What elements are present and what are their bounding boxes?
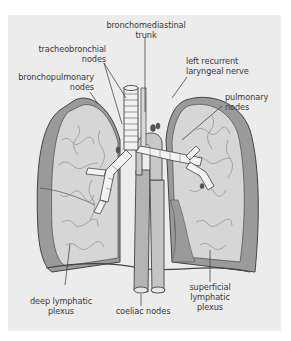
- label-deep-lymphatic-plexus: deep lymphatic plexus: [24, 296, 98, 316]
- label-line: left recurrent: [186, 56, 249, 66]
- label-line: coeliac nodes: [108, 306, 178, 316]
- label-coeliac-nodes: coeliac nodes: [108, 306, 178, 316]
- label-line: tracheobronchial: [26, 44, 106, 54]
- label-left-recurrent-laryngeal-nerve: left recurrent laryngeal nerve: [186, 56, 249, 76]
- label-superficial-lymphatic-plexus: superficial lymphatic plexus: [180, 282, 240, 312]
- trachea: [124, 86, 138, 151]
- label-line: bronchopulmonary: [12, 72, 94, 82]
- label-line: trunk: [103, 30, 189, 40]
- label-bronchopulmonary-nodes: bronchopulmonary nodes: [12, 72, 94, 92]
- label-line: plexus: [24, 306, 98, 316]
- label-line: laryngeal nerve: [186, 66, 249, 76]
- label-line: pulmonary: [225, 92, 268, 102]
- label-line: deep lymphatic: [24, 296, 98, 306]
- label-bronchomediastinal-trunk: bronchomediastinal trunk: [103, 20, 189, 40]
- descending-vessels: [134, 170, 165, 293]
- label-line: nodes: [225, 102, 268, 112]
- label-line: plexus: [180, 302, 240, 312]
- label-line: lymphatic: [180, 292, 240, 302]
- label-line: nodes: [26, 54, 106, 64]
- label-line: superficial: [180, 282, 240, 292]
- label-line: bronchomediastinal: [103, 20, 189, 30]
- label-pulmonary-nodes: pulmonary nodes: [225, 92, 268, 112]
- label-tracheobronchial-nodes: tracheobronchial nodes: [26, 44, 106, 64]
- label-line: nodes: [12, 82, 94, 92]
